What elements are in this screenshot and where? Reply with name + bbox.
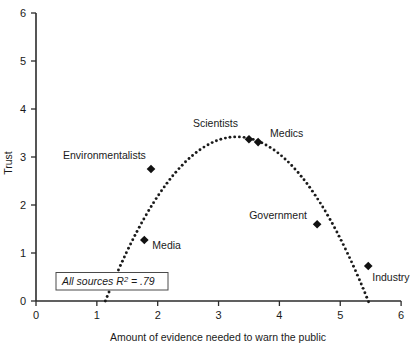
fit-curve-dot	[157, 193, 160, 196]
x-tick-label: 6	[398, 309, 404, 321]
fit-curve-dot	[145, 213, 148, 216]
fit-curve-dot	[335, 231, 338, 234]
fit-curve-dot	[305, 182, 308, 185]
fit-curve-dot	[106, 295, 109, 298]
fit-curve-dot	[362, 287, 365, 290]
point-labels-group: EnvironmentalistsMediaScientistsMedicsGo…	[63, 117, 410, 283]
fit-curve-dot	[321, 206, 324, 209]
fit-curve-dot	[344, 248, 347, 251]
fit-curve-dot	[136, 230, 139, 233]
fit-curve-dot	[287, 161, 290, 164]
fit-curve-dot	[233, 135, 236, 138]
fit-curve-dot	[243, 136, 246, 139]
fit-curve-dot	[104, 300, 107, 303]
fit-curve-dot	[265, 144, 268, 147]
fit-curve-dot	[166, 182, 169, 185]
x-tick-label: 4	[276, 309, 282, 321]
fit-curve-dot	[160, 189, 163, 192]
fit-curve-dot	[188, 157, 191, 160]
fit-curve-dot	[352, 265, 355, 268]
fit-curve-dot	[290, 164, 293, 167]
fit-curve-dot	[280, 154, 283, 157]
annotation-prefix: All sources	[61, 275, 116, 287]
fit-curve-dot	[329, 218, 332, 221]
fit-curve-dot	[219, 138, 222, 141]
y-tick-label: 2	[20, 199, 26, 211]
fit-curve-dot	[363, 291, 366, 294]
data-point-label: Government	[249, 209, 307, 221]
fit-curve-dot	[273, 149, 276, 152]
annotation-value: = .79	[128, 275, 155, 287]
fit-curve-dot	[129, 243, 132, 246]
fit-curve-dot	[340, 239, 343, 242]
fit-curve-dot	[117, 269, 120, 272]
fit-curve-dot	[319, 202, 322, 205]
fit-curve-dot	[358, 278, 361, 281]
fit-curve-dot	[181, 164, 184, 167]
x-tick-label: 2	[155, 309, 161, 321]
fit-curve-dot	[211, 141, 214, 144]
fit-curve-dot	[155, 197, 158, 200]
data-point-label: Environmentalists	[63, 149, 146, 161]
fit-curve-dot	[121, 260, 124, 263]
fit-curve-dot	[354, 269, 357, 272]
fit-curve-dot	[108, 291, 111, 294]
fit-curve-dot	[229, 136, 232, 139]
fit-curve-dot	[308, 186, 311, 189]
data-point-label: Scientists	[193, 117, 238, 129]
data-point-label: Medics	[270, 127, 303, 139]
fit-curve-dot	[133, 234, 136, 237]
data-point-label: Media	[152, 239, 181, 251]
fit-curve-dot	[224, 137, 227, 140]
y-tick-label: 3	[20, 151, 26, 163]
fit-curve-dot	[195, 151, 198, 154]
fit-curve-dot	[333, 226, 336, 229]
fit-curve-dot	[125, 251, 128, 254]
fit-curve-dot	[123, 255, 126, 258]
r-squared-annotation: All sources R2 = .79	[56, 273, 168, 291]
fit-curve-dot	[138, 226, 141, 229]
y-tick-label: 0	[20, 295, 26, 307]
fit-curve-dot	[178, 167, 181, 170]
fit-curve-dot	[365, 296, 368, 299]
fit-curve-dot	[199, 148, 202, 151]
fit-curve-dot	[142, 217, 145, 220]
fit-curve-dot	[314, 194, 317, 197]
fit-curve-dot	[269, 146, 272, 149]
data-point-marker	[364, 262, 373, 271]
fit-curve-dot	[163, 185, 166, 188]
fit-curve-dot	[360, 283, 363, 286]
fit-curve-dot	[316, 198, 319, 201]
data-point-marker	[254, 138, 263, 147]
fit-curve-dot	[131, 238, 134, 241]
fit-curve-dot	[303, 178, 306, 181]
data-point-marker	[140, 236, 149, 245]
fit-curve-dot	[184, 160, 187, 163]
fit-curve-dot	[168, 178, 171, 181]
fit-curve-dot	[119, 264, 122, 267]
fit-curve-dot	[350, 260, 353, 263]
x-tick-label: 0	[33, 309, 39, 321]
fit-curve-dot	[140, 222, 143, 225]
fit-curve-dot	[215, 139, 218, 142]
fit-curve-dot	[152, 201, 155, 204]
fit-curve-dot	[348, 256, 351, 259]
x-axis-title: Amount of evidence needed to warn the pu…	[110, 331, 326, 343]
y-tick-label: 4	[20, 103, 26, 115]
fit-curve-dot	[147, 209, 150, 212]
data-point-marker	[147, 165, 156, 174]
fit-curve-dot	[127, 247, 130, 250]
fit-curve-dot	[331, 222, 334, 225]
x-axis-ticks: 0123456	[33, 301, 404, 321]
y-tick-label: 1	[20, 247, 26, 259]
x-tick-label: 3	[215, 309, 221, 321]
y-axis-title: Trust	[2, 151, 14, 175]
fit-curve-dot	[300, 175, 303, 178]
fit-curve-dot	[207, 143, 210, 146]
data-point-marker	[245, 135, 254, 144]
fit-curve-dot	[150, 205, 153, 208]
chart-canvas: 0123456 0123456 EnvironmentalistsMediaSc…	[0, 0, 413, 356]
fit-curve-dot	[311, 190, 314, 193]
fit-curve-dot	[171, 174, 174, 177]
fit-curve-dot	[326, 214, 329, 217]
